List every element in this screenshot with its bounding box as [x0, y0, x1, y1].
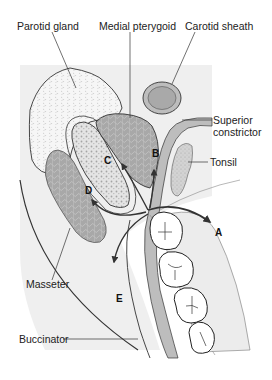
- carotid-sheath-inner: [148, 87, 176, 110]
- label-superior-constrictor-1: Superior: [213, 114, 253, 126]
- label-carotid-sheath: Carotid sheath: [185, 20, 253, 32]
- tooth: [150, 212, 182, 250]
- arrow-label-c: C: [104, 155, 111, 166]
- arrow-label-e: E: [116, 293, 123, 304]
- tooth: [159, 252, 193, 288]
- label-superior-constrictor-2: constrictor: [213, 126, 262, 138]
- anatomy-diagram: Parotid gland Medial pterygoid Carotid s…: [0, 0, 272, 380]
- label-parotid-gland: Parotid gland: [17, 20, 79, 32]
- label-masseter: Masseter: [26, 278, 70, 290]
- arrow-label-b: B: [152, 148, 159, 159]
- label-tonsil: Tonsil: [210, 156, 237, 168]
- label-medial-pterygoid: Medial pterygoid: [99, 20, 176, 32]
- label-buccinator: Buccinator: [19, 333, 69, 345]
- arrow-label-d: D: [85, 185, 92, 196]
- arrow-label-a: A: [215, 227, 222, 238]
